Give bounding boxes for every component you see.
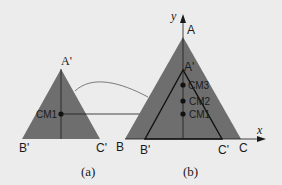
label-a-prime-b: A' <box>184 60 194 74</box>
label-a: A <box>187 23 195 37</box>
label-a-prime-a: A' <box>61 54 72 68</box>
label-y-axis: y <box>170 9 177 23</box>
label-cm1-b: CM1 <box>189 109 211 120</box>
label-x-axis: x <box>256 123 263 137</box>
label-c: C <box>239 141 248 155</box>
label-c-prime-a: C' <box>96 141 107 155</box>
cm1-dot-b <box>180 111 185 116</box>
label-cm3: CM3 <box>188 80 210 91</box>
label-b-prime-b: B' <box>140 143 150 157</box>
cm2-dot <box>180 98 185 103</box>
caption-b: (b) <box>183 164 198 179</box>
caption-a: (a) <box>81 164 95 179</box>
background <box>0 0 282 185</box>
cm3-dot <box>180 82 185 87</box>
label-c-prime-b: C' <box>218 143 229 157</box>
label-cm1-a: CM1 <box>36 109 58 120</box>
label-cm2: CM2 <box>189 96 211 107</box>
label-b: B <box>116 140 124 154</box>
label-b-prime-a: B' <box>19 141 29 155</box>
diagram-canvas: A' CM1 B' C' (a) y A A' CM3 CM2 CM1 x B … <box>0 0 282 185</box>
